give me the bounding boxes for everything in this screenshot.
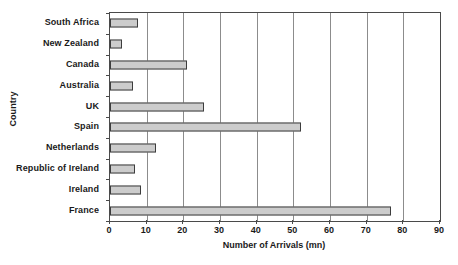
category-label: Republic of Ireland [0,158,104,179]
x-axis-tick [439,220,440,224]
bar-chart: Country South AfricaNew ZealandCanadaAus… [0,0,458,265]
bar-row [110,34,440,55]
x-axis-tick-label: 10 [141,225,151,235]
bar-row [110,13,440,34]
y-axis-tick [106,200,110,201]
bar-row [110,179,440,200]
bar [110,102,204,111]
y-axis-tick [106,179,110,180]
y-axis-category-labels: South AfricaNew ZealandCanadaAustraliaUK… [0,12,104,220]
bar-row [110,138,440,159]
bar-row [110,159,440,180]
bar [110,81,133,90]
x-axis-tick [146,220,147,224]
y-axis-tick [106,159,110,160]
x-axis-tick-label: 60 [324,225,334,235]
category-label: UK [0,95,104,116]
plot-area [109,12,441,222]
x-axis-tick [329,220,330,224]
x-axis-tick [292,220,293,224]
bar-rows [110,13,440,221]
category-label: Canada [0,54,104,75]
bar [110,40,122,49]
x-axis-tick-label: 50 [287,225,297,235]
y-axis-tick [106,55,110,56]
bar-row [110,117,440,138]
y-axis-tick [106,138,110,139]
category-label: Australia [0,74,104,95]
x-axis-tick [219,220,220,224]
x-axis-tick [256,220,257,224]
bar-row [110,75,440,96]
bar [110,60,187,69]
x-axis-tick-label: 90 [434,225,444,235]
x-axis-tick-label: 20 [177,225,187,235]
x-axis-tick-label: 0 [106,225,111,235]
y-axis-tick [106,75,110,76]
x-axis-tick [109,220,110,224]
x-axis-tick-label: 70 [361,225,371,235]
category-label: France [0,199,104,220]
category-label: New Zealand [0,33,104,54]
category-label: Spain [0,116,104,137]
bar-row [110,55,440,76]
bar [110,123,301,132]
x-axis-title: Number of Arrivals (mn) [109,240,439,250]
x-axis-tick-label: 30 [214,225,224,235]
category-label: South Africa [0,12,104,33]
y-axis-tick [106,34,110,35]
category-label: Ireland [0,178,104,199]
bar-row [110,96,440,117]
bar [110,19,138,28]
y-axis-tick [106,96,110,97]
x-axis-tick-labels: 0102030405060708090 [109,225,439,238]
x-axis-tick [366,220,367,224]
x-axis-tick-label: 80 [397,225,407,235]
bar [110,206,391,215]
y-axis-tick [106,13,110,14]
x-axis-tick [182,220,183,224]
bar-row [110,200,440,221]
x-axis-tick [402,220,403,224]
y-axis-tick [106,117,110,118]
bar [110,144,156,153]
category-label: Netherlands [0,137,104,158]
x-axis-tick-label: 40 [251,225,261,235]
bar [110,164,135,173]
bar [110,185,141,194]
